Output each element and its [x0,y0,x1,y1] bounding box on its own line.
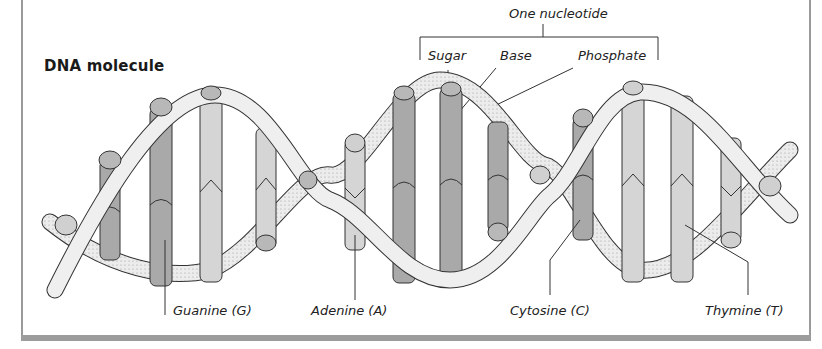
phosphate-label: Phosphate [578,48,646,63]
base-label: Base [500,48,532,63]
base-pairs [100,88,741,286]
guanine-label: Guanine (G) [173,303,252,318]
dna-helix-illustration [0,0,822,349]
adenine-label: Adenine (A) [311,303,387,318]
thymine-label: Thymine (T) [705,303,784,318]
base-pair-dividers [100,174,741,212]
one-nucleotide-label: One nucleotide [509,6,608,21]
cytosine-label: Cytosine (C) [510,303,590,318]
sugar-label: Sugar [428,48,466,63]
